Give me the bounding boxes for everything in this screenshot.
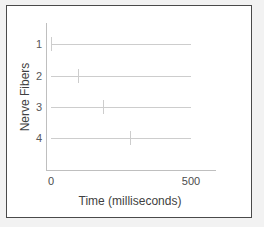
fiber-marker-4 bbox=[130, 131, 131, 145]
plot-area: 1 2 3 4 0 500 bbox=[7, 6, 251, 217]
figure-root: 1 2 3 4 0 500 bbox=[0, 0, 264, 227]
fiber-row: 1 bbox=[22, 37, 222, 51]
fiber-marker-3 bbox=[103, 100, 104, 114]
x-tick-label-500: 500 bbox=[171, 174, 211, 188]
figure-frame: 1 2 3 4 0 500 bbox=[6, 5, 252, 218]
y-axis-title: Nerve Fibers bbox=[18, 32, 32, 162]
fiber-line-4 bbox=[51, 138, 191, 139]
x-axis-title: Time (milliseconds) bbox=[7, 194, 253, 208]
fiber-marker-2 bbox=[78, 69, 79, 83]
fiber-line-1 bbox=[51, 44, 191, 45]
fiber-line-2 bbox=[51, 76, 191, 77]
fiber-row: 4 bbox=[22, 131, 222, 145]
fiber-line-3 bbox=[51, 107, 191, 108]
fiber-row: 2 bbox=[22, 69, 222, 83]
fiber-marker-1 bbox=[51, 37, 52, 51]
x-tick-label-0: 0 bbox=[31, 174, 71, 188]
fiber-row: 3 bbox=[22, 100, 222, 114]
x-axis-spine bbox=[46, 170, 216, 171]
